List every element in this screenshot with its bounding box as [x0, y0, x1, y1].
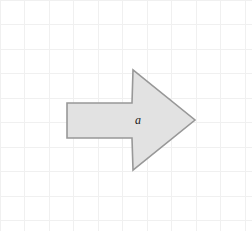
block-arrow-shape [67, 70, 195, 170]
figure-canvas: a [0, 0, 252, 231]
arrow-label-a: a [135, 114, 141, 126]
arrow-shape-layer [0, 0, 252, 231]
